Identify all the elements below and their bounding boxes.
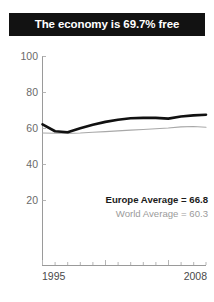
x-tick-label-end: 2008: [184, 271, 207, 282]
legend-item-europe-average: Europe Average = 66.8: [96, 193, 208, 207]
chart-figure: The economy is 69.7% free 100 80 60 40 2…: [0, 0, 214, 302]
y-tick-marks: [43, 57, 47, 201]
series-line-europe-average: [43, 115, 207, 133]
x-tick-label-start: 1995: [42, 271, 65, 282]
chart-legend: Europe Average = 66.8 World Average = 60…: [96, 193, 208, 221]
x-tick-marks: [43, 260, 207, 265]
legend-item-world-average: World Average = 60.3: [96, 207, 208, 221]
plot-canvas: [0, 0, 214, 302]
